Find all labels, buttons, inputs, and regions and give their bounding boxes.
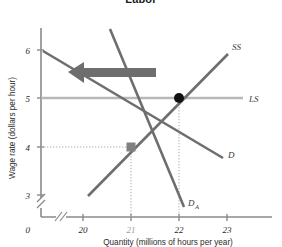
origin-label-0: 0: [26, 225, 31, 235]
x-tick-label-21: 21: [127, 225, 136, 235]
ss-curve-label: SS: [232, 42, 242, 52]
shift-arrow: [68, 62, 156, 83]
x-tick-label-23: 23: [223, 225, 233, 235]
x-tick-label-22: 22: [175, 225, 185, 235]
d-curve: [43, 51, 223, 158]
figure-container: Labor: [0, 0, 282, 247]
new-intersection-marker: [127, 143, 136, 152]
equilibrium-point-marker: [174, 93, 184, 103]
da-curve-label-subscript: A: [194, 203, 199, 210]
da-curve: [110, 29, 184, 207]
ls-curve-label: LS: [248, 94, 259, 104]
x-axis-title: Quantity (millions of hours per year): [103, 238, 233, 247]
y-tick-label-6: 6: [26, 46, 31, 56]
y-tick-label-4: 4: [26, 143, 31, 153]
d-curve-label: D: [227, 150, 235, 160]
da-curve-label-group: D A: [187, 198, 199, 210]
y-axis-title: Wage rate (dollars per hour): [8, 77, 17, 179]
y-tick-label-3: 3: [25, 191, 31, 201]
y-tick-label-5: 5: [26, 94, 31, 104]
labor-market-chart: 6 5 4 3 0 20 21 22 23 SS D LS: [0, 0, 282, 247]
da-curve-label: D: [187, 198, 195, 208]
x-tick-label-20: 20: [79, 225, 89, 235]
